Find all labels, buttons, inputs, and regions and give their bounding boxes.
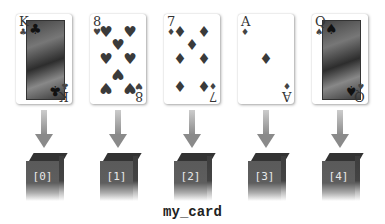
diamond-icon: ♦ — [283, 81, 291, 90]
card-rank: Q — [354, 90, 365, 103]
diamond-icon: ♦ — [259, 52, 272, 67]
index-label: [0] — [26, 170, 59, 183]
spade-icon: ♠ — [325, 21, 338, 37]
arrow-down-icon — [333, 110, 347, 150]
spade-icon: ♠ — [357, 81, 365, 90]
heart-icon: ♥ — [111, 66, 124, 81]
array-slot-2: [2] — [174, 153, 212, 201]
index-label: [2] — [174, 170, 207, 183]
card-ace-of-diamonds: A ♦ A ♦ ♦ — [238, 14, 294, 104]
card-eight-of-hearts: 8 ♥ 8 ♥ ♥ ♥ ♥ ♥ ♥ ♥ ♥ ♥ — [90, 14, 146, 104]
array-slot-3: [3] — [248, 153, 286, 201]
array-slot-1: [1] — [100, 153, 138, 201]
card-seven-of-diamonds: 7 ♦ 7 ♦ ♦ ♦ ♦ ♦ ♦ ♦ ♦ — [164, 14, 220, 104]
index-label: [3] — [248, 170, 281, 183]
heart-icon: ♥ — [123, 80, 136, 95]
diamond-icon: ♦ — [197, 52, 210, 67]
array-slot-0: [0] — [26, 153, 64, 201]
club-icon: ♣ — [19, 28, 27, 37]
index-label: [1] — [100, 170, 133, 183]
club-icon: ♣ — [61, 81, 69, 90]
array-slot-4: [4] — [322, 153, 360, 201]
card-king-of-clubs: ♣ ♣ K ♣ K ♣ — [16, 14, 72, 104]
queen-face-art: ♠ ♠ — [322, 20, 361, 100]
heart-icon: ♥ — [123, 52, 136, 67]
club-icon: ♣ — [29, 21, 42, 37]
diamond-icon: ♦ — [173, 52, 186, 67]
card-rank: K — [59, 90, 69, 103]
card-queen-of-spades: ♠ ♠ Q ♠ Q ♠ — [312, 14, 368, 104]
arrow-down-icon — [111, 110, 125, 150]
heart-icon: ♥ — [99, 80, 112, 95]
card-rank: A — [282, 90, 291, 103]
arrow-down-icon — [37, 110, 51, 150]
index-label: [4] — [322, 170, 355, 183]
heart-icon: ♥ — [123, 25, 136, 40]
array-name-label: my_card — [0, 204, 385, 220]
arrow-down-icon — [259, 110, 273, 150]
diamond-icon: ♦ — [241, 28, 249, 37]
king-face-art: ♣ ♣ — [26, 20, 65, 100]
diamond-icon: ♦ — [197, 25, 210, 40]
diamond-icon: ♦ — [197, 80, 210, 95]
arrow-down-icon — [185, 110, 199, 150]
spade-icon: ♠ — [315, 28, 323, 37]
heart-icon: ♥ — [99, 52, 112, 67]
diamond-icon: ♦ — [173, 80, 186, 95]
